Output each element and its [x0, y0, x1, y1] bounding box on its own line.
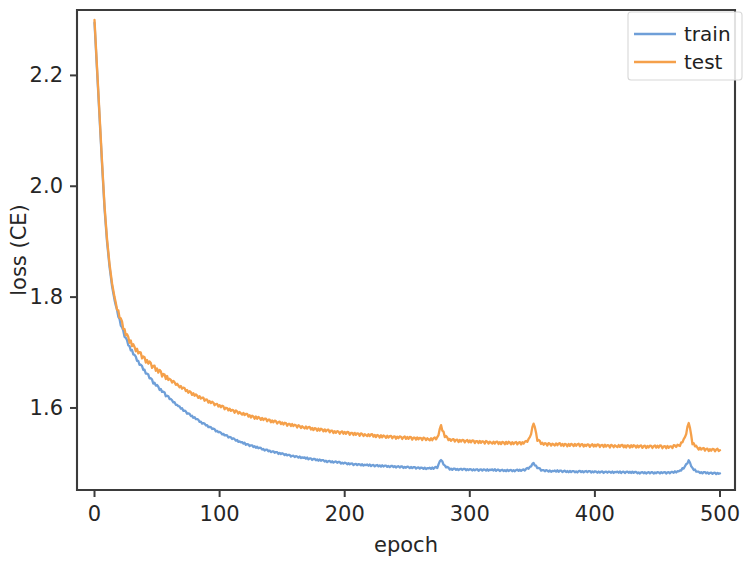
- chart-legend[interactable]: train test: [628, 12, 742, 80]
- figure-canvas: 0100200300400500 1.61.82.02.2 epoch loss…: [0, 0, 745, 561]
- y-axis-ticks: 1.61.82.02.2: [30, 63, 77, 420]
- x-tick-label: 0: [88, 502, 101, 526]
- y-axis-title: loss (CE): [7, 204, 31, 296]
- y-tick-label: 1.8: [30, 285, 63, 309]
- x-tick-label: 500: [700, 502, 740, 526]
- plot-area-background: [77, 10, 735, 490]
- x-axis-title: epoch: [374, 533, 438, 557]
- x-tick-label: 300: [450, 502, 490, 526]
- x-tick-label: 200: [325, 502, 365, 526]
- legend-label-train: train: [684, 22, 731, 46]
- y-tick-label: 2.2: [30, 63, 63, 87]
- x-tick-label: 100: [200, 502, 240, 526]
- x-tick-label: 400: [575, 502, 615, 526]
- y-tick-label: 1.6: [30, 396, 63, 420]
- y-tick-label: 2.0: [30, 174, 63, 198]
- x-axis-ticks: 0100200300400500: [88, 490, 740, 526]
- loss-curve-chart: 0100200300400500 1.61.82.02.2 epoch loss…: [0, 0, 745, 561]
- legend-label-test: test: [684, 50, 723, 74]
